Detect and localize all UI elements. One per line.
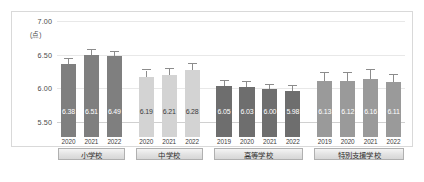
y-axis-tick-label: 6.00 (38, 84, 52, 93)
error-bar-stem (393, 75, 394, 82)
error-bar-cap (265, 84, 274, 85)
error-bar-stem (114, 52, 115, 57)
x-axis-year-label: 2022 (382, 138, 405, 145)
error-bar (317, 22, 332, 137)
plot-area: 7.006.506.005.506.386.516.496.196.216.28… (57, 22, 405, 137)
x-axis-year-label: 2022 (181, 138, 204, 145)
group-label-box: 小学校 (58, 148, 125, 160)
error-bar-stem (370, 70, 371, 79)
error-bar-stem (347, 73, 348, 81)
error-bar (84, 22, 99, 137)
error-bar (139, 22, 154, 137)
error-bar (239, 22, 254, 137)
error-bar-cap (389, 74, 398, 75)
error-bar (285, 22, 300, 137)
error-bar-cap (220, 80, 229, 81)
error-bar-stem (246, 82, 247, 87)
error-bar-stem (292, 86, 293, 91)
error-bar-stem (91, 50, 92, 55)
group-label-box: 特別支援学校 (314, 148, 404, 160)
chart-frame: (点) 7.006.506.005.506.386.516.496.196.21… (11, 11, 413, 147)
x-axis-year-label: 2021 (158, 138, 181, 145)
error-bar-stem (169, 69, 170, 75)
x-axis-year-label: 2021 (80, 138, 103, 145)
error-bar-cap (320, 72, 329, 73)
x-axis-year-label: 2019 (213, 138, 236, 145)
error-bar-cap (64, 58, 73, 59)
error-bar (363, 22, 378, 137)
error-bar-stem (146, 71, 147, 77)
error-bar (162, 22, 177, 137)
error-bar-cap (343, 72, 352, 73)
x-axis-year-label: 2021 (359, 138, 382, 145)
error-bar (262, 22, 277, 137)
x-axis-year-label: 2020 (57, 138, 80, 145)
x-axis-year-label: 2022 (103, 138, 126, 145)
error-bar-cap (188, 63, 197, 64)
error-bar-cap (165, 68, 174, 69)
y-axis-tick-label: 7.00 (38, 17, 52, 26)
error-bar-cap (142, 69, 151, 70)
error-bar (61, 22, 76, 137)
error-bar-stem (324, 73, 325, 80)
error-bar-cap (110, 51, 119, 52)
error-bar (386, 22, 401, 137)
y-axis-tick-label: 5.50 (38, 118, 52, 127)
group-label-text: 特別支援学校 (338, 149, 381, 160)
error-bar-cap (242, 81, 251, 82)
error-bar-stem (269, 85, 270, 90)
group-label-box: 中学校 (136, 148, 203, 160)
error-bar-cap (288, 85, 297, 86)
group-label-box: 高等学校 (214, 148, 304, 160)
error-bar-stem (192, 64, 193, 70)
y-axis-unit-label: (点) (30, 29, 41, 39)
error-bar-cap (366, 69, 375, 70)
error-bar (107, 22, 122, 137)
error-bar (340, 22, 355, 137)
x-axis-year-label: 2019 (313, 138, 336, 145)
error-bar-stem (68, 59, 69, 64)
error-bar-stem (224, 81, 225, 86)
y-axis-tick-label: 6.50 (38, 50, 52, 59)
x-axis-year-label: 2020 (236, 138, 259, 145)
error-bar-cap (87, 49, 96, 50)
x-axis-year-label: 2020 (336, 138, 359, 145)
error-bar (216, 22, 231, 137)
group-label-text: 中学校 (158, 149, 180, 160)
x-axis-year-label: 2021 (258, 138, 281, 145)
group-label-text: 小学校 (81, 149, 103, 160)
x-axis-year-label: 2020 (135, 138, 158, 145)
x-axis-year-label: 2022 (281, 138, 304, 145)
group-label-text: 高等学校 (244, 149, 273, 160)
error-bar (185, 22, 200, 137)
